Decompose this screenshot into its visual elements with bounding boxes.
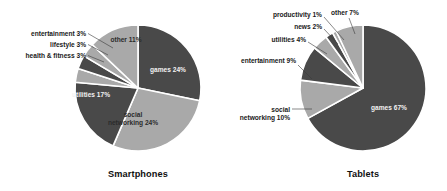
slice-label-line: other 7% [331, 9, 359, 16]
chart-title-tablets: Tablets [347, 169, 379, 179]
slice-label-line: entertainment 9% [241, 57, 296, 64]
slice-label-line: utilities 4% [272, 36, 307, 43]
slice-label-line: utilities 17% [72, 91, 110, 98]
slice-label-entertainment: entertainment 3% [31, 30, 86, 37]
slice-label-line: health & fitness 3% [26, 52, 87, 59]
slice-label-news: news 2% [294, 23, 322, 30]
slice-label-line: productivity 1% [273, 11, 322, 19]
slice-label-line: lifestyle 3% [50, 41, 86, 49]
slice-label-line: news 2% [294, 23, 322, 30]
slice-label-lifestyle: lifestyle 3% [50, 41, 86, 49]
slice-label-line: networking 10% [240, 114, 290, 122]
slice-label-health-fitness: health & fitness 3% [26, 52, 87, 59]
slice-label-utilities: utilities 17% [72, 91, 110, 98]
slice-label-line: social [271, 106, 290, 113]
slice-label-line: games 24% [150, 66, 186, 74]
slice-label-line: social [124, 111, 143, 118]
slice-label-productivity: productivity 1% [273, 11, 322, 19]
slice-label-utilities: utilities 4% [272, 36, 307, 43]
slice-label-games: games 24% [150, 66, 186, 74]
slice-label-line: networking 24% [108, 119, 158, 127]
slice-label-entertainment: entertainment 9% [241, 57, 296, 64]
slice-label-other: other 11% [110, 36, 141, 43]
slice-label-line: games 67% [371, 104, 407, 112]
slice-label-other: other 7% [331, 9, 359, 16]
slice-label-line: entertainment 3% [31, 30, 86, 37]
pie-chart-figure: games 24%socialnetworking 24%utilities 1… [0, 0, 447, 191]
pie-charts-svg: games 24%socialnetworking 24%utilities 1… [0, 0, 447, 191]
chart-title-smartphones: Smartphones [108, 169, 168, 179]
slice-label-line: other 11% [110, 36, 141, 43]
slice-label-games: games 67% [371, 104, 407, 112]
